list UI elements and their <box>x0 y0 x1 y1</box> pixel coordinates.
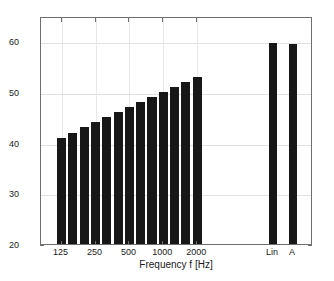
x-tick-mark <box>196 18 197 22</box>
bar <box>147 97 156 244</box>
x-tick-mark <box>128 241 129 245</box>
x-tick-label: 1000 <box>152 247 172 257</box>
chart-figure: Third-octave band level L [dB] 203040506… <box>0 0 334 281</box>
y-tick-label: 40 <box>9 139 19 149</box>
x-tick-mark <box>128 18 129 22</box>
x-tick-label: 125 <box>53 247 68 257</box>
x-tick-label: 500 <box>121 247 136 257</box>
y-tick-mark <box>40 245 44 246</box>
x-tick-mark <box>95 18 96 22</box>
x-tick-label: 2000 <box>186 247 206 257</box>
x-axis-title: Frequency f [Hz] <box>139 259 212 270</box>
x-tick-mark <box>61 241 62 245</box>
plot-area <box>40 17 312 245</box>
bar <box>114 112 123 244</box>
y-tick-label: 30 <box>9 189 19 199</box>
y-tick-mark <box>308 245 312 246</box>
x-tick-mark <box>196 241 197 245</box>
x-tick-label: 250 <box>87 247 102 257</box>
x-tick-mark <box>162 18 163 22</box>
y-tick-label: 20 <box>9 240 19 250</box>
y-tick-label: 60 <box>9 37 19 47</box>
bar <box>170 87 179 244</box>
x-tick-mark <box>162 241 163 245</box>
bar <box>159 92 168 244</box>
bar <box>102 117 111 244</box>
x-tick-mark <box>95 241 96 245</box>
x-tick-mark <box>61 18 62 22</box>
y-tick-label: 50 <box>9 88 19 98</box>
bar <box>269 43 277 244</box>
bar <box>57 138 66 244</box>
bar <box>289 44 297 244</box>
bar <box>125 107 134 244</box>
bar <box>181 82 190 244</box>
bar <box>193 77 202 244</box>
x-tick-label: A <box>289 247 295 257</box>
bar <box>80 127 89 244</box>
bar <box>91 122 100 244</box>
bar <box>68 133 77 244</box>
bar <box>136 102 145 244</box>
x-tick-label: Lin <box>266 247 278 257</box>
